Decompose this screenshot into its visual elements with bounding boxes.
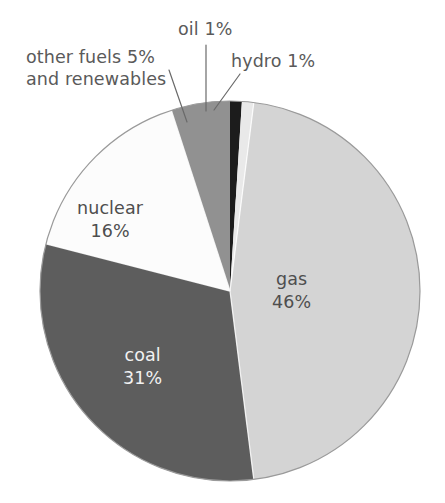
- pie-label-hydro-text: hydro 1%: [231, 51, 315, 71]
- pie-label-coal: coal 31%: [123, 344, 162, 390]
- pie-label-nuclear-name: nuclear: [77, 198, 143, 218]
- pie-label-oil: oil 1%: [178, 18, 232, 40]
- pie-label-other-fuels: other fuels 5% and renewables: [26, 46, 166, 91]
- pie-label-gas-value: 46%: [272, 291, 311, 314]
- pie-label-coal-name: coal: [124, 345, 160, 365]
- pie-label-hydro: hydro 1%: [231, 50, 315, 72]
- pie-label-coal-value: 31%: [123, 367, 162, 390]
- pie-slice-gas[interactable]: [230, 103, 420, 480]
- pie-label-other-fuels-line1: other fuels 5%: [26, 47, 155, 67]
- pie-label-other-fuels-line2: and renewables: [26, 68, 166, 90]
- pie-chart: other fuels 5% and renewables oil 1% hyd…: [0, 0, 445, 503]
- pie-label-oil-text: oil 1%: [178, 19, 232, 39]
- pie-label-gas: gas 46%: [272, 268, 311, 314]
- pie-label-nuclear: nuclear 16%: [77, 197, 143, 243]
- pie-label-nuclear-value: 16%: [77, 220, 143, 243]
- pie-label-gas-name: gas: [276, 269, 307, 289]
